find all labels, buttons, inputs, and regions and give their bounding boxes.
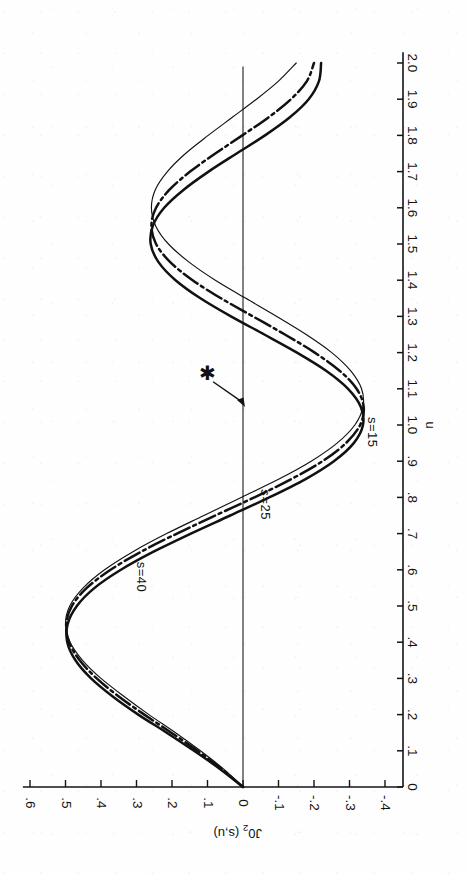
value-tick-label: .4 [94,797,109,809]
figure-container: 0.1.2.3.4.5.6.7.8.91.01.11.21.31.41.51.6… [0,0,468,874]
u-tick-label: 1.2 [405,343,420,362]
value-tick-label: .5 [59,797,74,808]
u-tick-label: .5 [405,600,420,611]
u-tick-label: 1.1 [405,379,420,398]
value-axis-title: J02 (s,u) [213,823,262,840]
u-tick-label: 2.0 [405,54,420,73]
u-tick-label: .3 [405,673,420,684]
u-tick-label: 1.8 [405,126,420,145]
u-axis-ticks [397,63,403,787]
u-tick-label: 1.5 [405,235,420,254]
u-tick-label: 1.4 [405,271,420,290]
curve-label-s15: s=15 [365,417,380,448]
u-tick-label: 1.0 [405,416,420,435]
u-tick-label: 1.7 [405,162,420,181]
value-tick-label: .3 [130,797,145,808]
asterisk-marker: ✱ [199,362,216,384]
u-tick-label: .1 [405,745,420,756]
value-tick-label: -.1 [272,795,287,811]
value-tick-label: 0 [236,799,251,807]
u-axis-title: u [423,421,438,428]
value-tick-label: .6 [23,797,38,808]
value-tick-label: .1 [201,797,216,808]
value-axis-title-text: J02 (s,u) [213,823,262,840]
value-tick-label: -.3 [343,795,358,811]
value-axis-title-rot: J02 (s,u) [213,823,262,840]
paper-background [0,0,468,874]
curve-label-s25: s=25 [258,489,273,520]
u-tick-label: .2 [405,709,420,720]
value-tick-label: -.2 [307,795,322,811]
u-tick-label: 1.3 [405,307,420,326]
value-tick-label: .2 [165,797,180,808]
u-axis-tick-labels: 0.1.2.3.4.5.6.7.8.91.01.11.21.31.41.51.6… [405,54,420,791]
plot-svg: 0.1.2.3.4.5.6.7.8.91.01.11.21.31.41.51.6… [0,0,468,874]
u-tick-label: 0 [405,783,420,791]
curve-label-s40: s=40 [134,562,149,593]
u-tick-label: .8 [405,492,420,503]
value-tick-label: -.4 [378,795,393,811]
u-tick-label: 1.9 [405,90,420,109]
u-tick-label: .4 [405,637,420,649]
u-tick-label: .6 [405,564,420,575]
u-tick-label: .7 [405,528,420,539]
u-tick-label: .9 [405,456,420,467]
u-tick-label: 1.6 [405,198,420,217]
